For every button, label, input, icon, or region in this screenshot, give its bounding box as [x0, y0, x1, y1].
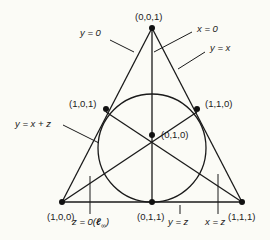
label-point-010: (0,1,0)	[161, 129, 188, 140]
label-point-101: (1,0,1)	[69, 98, 96, 109]
label-line-y0: y = 0	[79, 27, 102, 38]
label-line-z0-close: )	[105, 216, 109, 227]
line-z0-median	[62, 112, 197, 202]
label-line-z0-text: z = 0(	[71, 216, 97, 227]
fano-plane-diagram: (0,0,1) (1,0,0) (1,1,1) (0,1,1) (0,1,0) …	[0, 0, 270, 240]
label-point-100: (1,0,0)	[47, 211, 74, 222]
point-001	[149, 25, 155, 31]
point-110	[194, 106, 200, 112]
label-line-z0: z = 0(ℓ∞)	[71, 216, 109, 229]
point-010	[149, 132, 155, 138]
line-xz-median	[106, 112, 242, 202]
label-line-yxz: y = x + z	[14, 118, 51, 129]
label-point-110: (1,1,0)	[205, 98, 232, 109]
line-y0-left-edge	[62, 28, 152, 202]
point-100	[59, 199, 65, 205]
label-point-111: (1,1,1)	[228, 211, 255, 222]
label-line-yz: y = z	[167, 216, 189, 227]
arrow-y0	[110, 40, 134, 52]
label-line-x0: x = 0	[196, 23, 219, 34]
label-point-001: (0,0,1)	[135, 11, 162, 22]
label-line-xz: x = z	[204, 216, 226, 227]
label-point-011: (0,1,1)	[137, 211, 164, 222]
arrow-yx	[178, 52, 205, 69]
arrow-yxz	[63, 125, 99, 143]
point-011	[149, 199, 155, 205]
label-line-yx: y = x	[209, 42, 232, 53]
point-111	[239, 199, 245, 205]
point-101	[103, 106, 109, 112]
line-yx-right-edge	[152, 28, 242, 202]
